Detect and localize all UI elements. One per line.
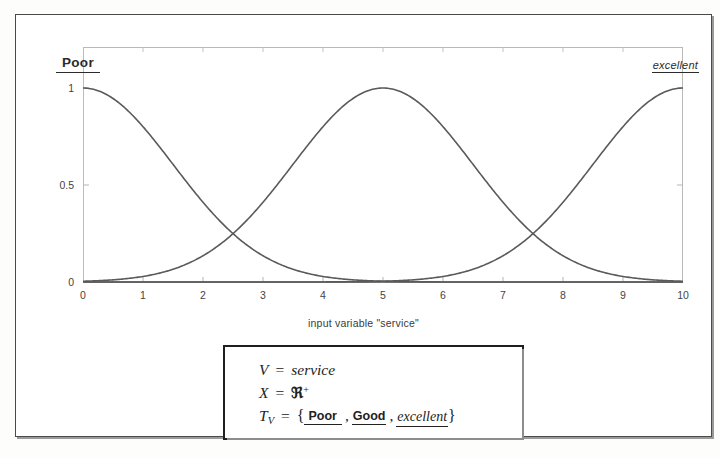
formula-line-x: X = ℜ+ xyxy=(259,384,456,407)
curve-excellent xyxy=(83,88,683,282)
x-tick-9: 9 xyxy=(620,289,626,301)
curves-svg xyxy=(83,47,683,283)
y-tick-1: 1 xyxy=(68,82,74,94)
x-tick-0: 0 xyxy=(80,289,86,301)
right-ticks xyxy=(677,88,683,185)
x-tick-10: 10 xyxy=(677,289,689,301)
formula-close-brace: } xyxy=(448,407,456,425)
formula-x-equals: = xyxy=(275,384,284,402)
y-axis-tick-labels: 1 0.5 0 xyxy=(16,47,80,283)
formula-t-symbol: T xyxy=(259,407,268,425)
y-tick-0: 0 xyxy=(68,276,74,288)
formula-comma-2: , xyxy=(389,407,393,425)
formula-term-poor: Poor xyxy=(304,409,341,425)
formula-term-excellent: excellent xyxy=(396,409,448,427)
membership-function-plot xyxy=(83,47,683,283)
curve-poor xyxy=(83,88,683,282)
formula-comma-1: , xyxy=(345,407,349,425)
y-tick-0.5: 0.5 xyxy=(59,179,74,191)
x-tick-6: 6 xyxy=(440,289,446,301)
term-set-definition-box: V = service X = ℜ+ TV = { Poor,Good,exce… xyxy=(223,345,524,440)
x-axis-title: input variable "service" xyxy=(16,317,711,329)
x-tick-7: 7 xyxy=(500,289,506,301)
formula-lines: V = service X = ℜ+ TV = { Poor,Good,exce… xyxy=(259,361,456,430)
formula-v-symbol: V xyxy=(259,361,268,379)
top-ticks xyxy=(143,47,623,52)
formula-term-good: Good xyxy=(352,409,387,425)
formula-open-brace: { xyxy=(297,407,305,425)
x-tick-4: 4 xyxy=(320,289,326,301)
formula-t-equals: = xyxy=(281,407,290,425)
x-tick-1: 1 xyxy=(140,289,146,301)
x-tick-3: 3 xyxy=(260,289,266,301)
x-tick-2: 2 xyxy=(200,289,206,301)
x-tick-8: 8 xyxy=(560,289,566,301)
formula-v-equals: = xyxy=(275,361,284,379)
label-term-poor: Poor xyxy=(56,55,100,73)
formula-t-subscript: V xyxy=(268,415,274,426)
formula-v-value: service xyxy=(291,361,335,379)
curve-good xyxy=(83,88,683,281)
formula-x-superscript: + xyxy=(303,384,309,395)
formula-line-v: V = service xyxy=(259,361,456,384)
label-term-excellent: excellent xyxy=(652,59,699,73)
formula-line-termset: TV = { Poor,Good,excellent} xyxy=(259,407,456,430)
formula-x-symbol: X xyxy=(259,384,268,402)
x-axis-tick-labels: 0 1 2 3 4 5 6 7 8 9 10 xyxy=(83,289,683,305)
x-tick-5: 5 xyxy=(380,289,386,301)
formula-x-real-set: ℜ xyxy=(291,384,303,401)
left-ticks xyxy=(83,88,89,185)
figure-frame: 1 0.5 0 xyxy=(15,14,712,437)
